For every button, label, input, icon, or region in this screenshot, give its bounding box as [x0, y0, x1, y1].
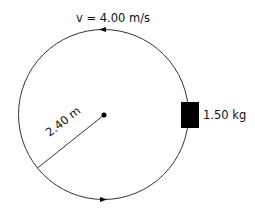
- velocity-label: v = 4.00 m/s: [76, 13, 150, 25]
- arrow-right-icon: [100, 197, 107, 202]
- mass-label: 1.50 kg: [203, 110, 246, 122]
- center-point: [102, 113, 107, 118]
- circular-motion-diagram: [0, 0, 255, 210]
- arrow-left-icon: [99, 27, 106, 32]
- mass-block: [181, 102, 199, 128]
